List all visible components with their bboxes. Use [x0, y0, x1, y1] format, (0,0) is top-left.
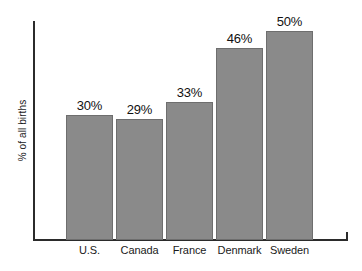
bar-rect[interactable]	[116, 119, 163, 240]
bar-value-label: 46%	[227, 31, 252, 46]
bar-group: 29%Canada	[116, 119, 163, 240]
plot-area: 30%U.S.29%Canada33%France46%Denmark50%Sw…	[0, 0, 362, 271]
bar-group: 33%France	[166, 102, 213, 240]
bar-rect[interactable]	[166, 102, 213, 240]
x-axis-category-label: U.S.	[79, 244, 100, 256]
x-axis-category-label: France	[173, 244, 207, 256]
bar-chart: % of all births 30%U.S.29%Canada33%Franc…	[0, 0, 362, 271]
bar-value-label: 33%	[177, 85, 202, 100]
x-axis-category-label: Canada	[121, 244, 159, 256]
bar-rect[interactable]	[216, 48, 263, 240]
bar-value-label: 29%	[127, 102, 152, 117]
bar-group: 46%Denmark	[216, 48, 263, 240]
bar-group: 50%Sweden	[266, 31, 313, 240]
bar-group: 30%U.S.	[66, 115, 113, 240]
bar-rect[interactable]	[66, 115, 113, 240]
bar-rect[interactable]	[266, 31, 313, 240]
x-axis-category-label: Denmark	[218, 244, 262, 256]
x-axis-category-label: Sweden	[270, 244, 309, 256]
bar-value-label: 30%	[77, 98, 102, 113]
bar-value-label: 50%	[277, 14, 302, 29]
